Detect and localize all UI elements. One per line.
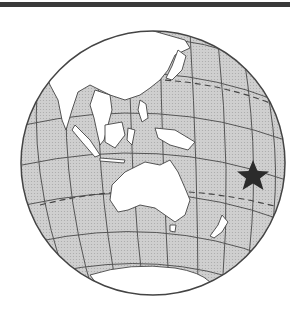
land-tasmania (170, 225, 176, 232)
globe-map (0, 0, 304, 312)
